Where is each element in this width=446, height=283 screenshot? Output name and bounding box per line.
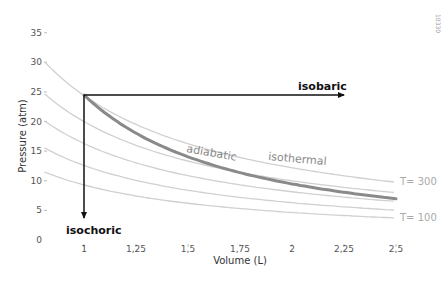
isobaric-label: isobaric	[298, 80, 347, 93]
x-tick-label: 1,75	[230, 244, 250, 254]
y-tick-label: 10	[31, 176, 43, 186]
x-axis: 11,251,51,7522,252,5	[81, 244, 403, 254]
x-tick-label: 1,5	[181, 244, 195, 254]
y-axis: 05101520253035	[31, 28, 47, 245]
pv-diagram-chart: 05101520253035 11,251,51,7522,252,5 isob…	[0, 0, 446, 283]
y-axis-label: Pressure (atm)	[17, 99, 28, 173]
adiabatic-curve	[84, 95, 396, 199]
t-300-label: T= 300	[399, 176, 437, 187]
x-tick-label: 2,5	[389, 244, 403, 254]
y-tick-label: 35	[31, 28, 42, 38]
isotherm-curve	[45, 94, 394, 193]
x-tick-label: 1	[81, 244, 87, 254]
x-tick-label: 2,25	[334, 244, 354, 254]
x-axis-label: Volume (L)	[213, 255, 267, 266]
x-tick-label: 2	[289, 244, 295, 254]
y-tick-label: 0	[36, 235, 42, 245]
t-100-label: T= 100	[399, 212, 437, 223]
x-tick-label: 1,25	[126, 244, 146, 254]
adiabatic-label: adiabatic	[185, 142, 237, 164]
isotherm-curve	[45, 121, 394, 201]
y-tick-label: 30	[31, 57, 43, 67]
figure-code: 10330	[435, 14, 442, 33]
y-tick-label: 15	[31, 146, 42, 156]
y-tick-label: 5	[36, 205, 42, 215]
y-tick-label: 20	[31, 117, 43, 127]
isochoric-label: isochoric	[66, 224, 122, 237]
y-tick-label: 25	[31, 87, 42, 97]
